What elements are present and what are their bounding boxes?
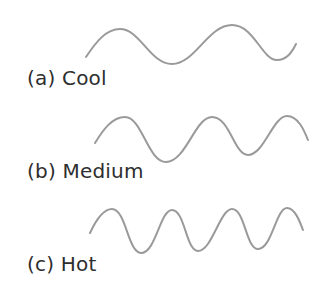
label-medium: (b) Medium	[27, 159, 144, 183]
wave-medium	[95, 116, 308, 162]
wave-comparison-diagram: (a) Cool (b) Medium (c) Hot	[0, 0, 334, 293]
waves-graphic	[0, 0, 334, 293]
wave-cool	[86, 25, 296, 64]
label-cool: (a) Cool	[27, 66, 107, 90]
label-hot: (c) Hot	[27, 252, 96, 276]
wave-hot	[90, 208, 303, 253]
